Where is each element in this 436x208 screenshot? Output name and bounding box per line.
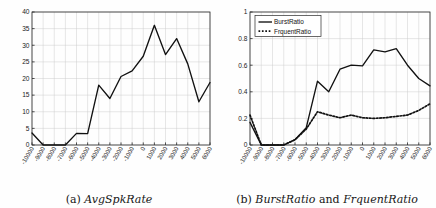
y-tick-label: 35 [22,25,30,32]
legend-label-frquentratio: FrquentRatio [274,28,311,36]
y-tick-label: 25 [22,58,30,65]
y-tick-label: 40 [22,8,30,15]
chart-a-svg: 0510152025303540-10000-9000-8000-7000-60… [0,0,218,180]
panel-avgspkrate: 0510152025303540-10000-9000-8000-7000-60… [0,0,218,208]
y-tick-label: 0.6 [238,62,247,69]
x-tick-label: 6000 [200,145,213,161]
caption-b: (b) BurstRatio and FrquentRatio [218,193,436,206]
x-tick-label: -1000 [121,145,135,163]
caption-a-title: AvgSpkRate [84,193,152,206]
caption-a-prefix: (a) [66,193,85,206]
y-tick-label: 20 [22,75,30,82]
y-tick-label: 1 [244,8,248,15]
x-tick-label: 0 [358,145,366,152]
y-tick-label: 0.4 [238,88,247,95]
figure-container: 0510152025303540-10000-9000-8000-7000-60… [0,0,436,208]
panel-burstratio: 00.20.40.60.81-10000-9000-8000-7000-6000… [218,0,436,208]
chart-b-svg: 00.20.40.60.81-10000-9000-8000-7000-6000… [218,0,436,180]
y-tick-label: 30 [22,42,30,49]
caption-a: (a) AvgSpkRate [0,193,218,206]
plot-area-b: 00.20.40.60.81-10000-9000-8000-7000-6000… [218,0,436,180]
caption-b-title: BurstRatio [255,193,315,206]
x-tick-label: 6000 [420,145,433,161]
y-tick-label: 0.8 [238,35,247,42]
x-tick-label: -1000 [340,145,354,163]
y-tick-label: 10 [22,108,30,115]
x-tick-label: 0 [139,145,147,152]
caption-b-conj: and [315,193,343,206]
x-tick-label: -10000 [237,145,253,166]
x-tick-label: -10000 [19,145,35,166]
legend-label-burstratio: BurstRatio [274,18,304,25]
y-tick-label: 0.2 [238,115,247,122]
caption-b-prefix: (b) [236,193,255,206]
caption-b-title2: FrquentRatio [343,193,418,206]
y-tick-label: 5 [26,125,30,132]
y-tick-label: 15 [22,91,30,98]
plot-area-a: 0510152025303540-10000-9000-8000-7000-60… [0,0,218,180]
